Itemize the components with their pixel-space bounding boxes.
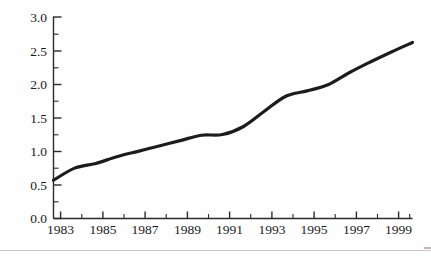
y-tick-label: 1.5 (30, 111, 47, 126)
x-tick-label: 1983 (47, 222, 74, 237)
x-tick-label: 1987 (132, 222, 159, 237)
chart-plot-area: 0.0 0.5 1.0 1.5 2.0 2.5 3.0 1983 1985 19… (0, 0, 431, 261)
line-chart-figure: 0.0 0.5 1.0 1.5 2.0 2.5 3.0 1983 1985 19… (0, 0, 431, 261)
x-axis-major-ticks (61, 212, 399, 219)
y-tick-label: 0.5 (30, 178, 47, 193)
y-tick-label: 3.0 (30, 10, 47, 25)
y-axis-tick-labels: 0.0 0.5 1.0 1.5 2.0 2.5 3.0 (30, 10, 47, 226)
x-tick-label: 1997 (343, 222, 370, 237)
x-axis-tick-labels: 1983 1985 1987 1989 1991 1993 1995 1997 … (47, 222, 412, 237)
data-series-line (54, 43, 413, 181)
y-tick-label: 2.5 (30, 44, 47, 59)
screenshot-root: 0.0 0.5 1.0 1.5 2.0 2.5 3.0 1983 1985 19… (0, 0, 431, 261)
y-axis-major-ticks (54, 17, 62, 219)
chart-axes (54, 17, 413, 219)
y-tick-label: 0.0 (30, 211, 47, 226)
page-edge-mark (424, 247, 431, 249)
x-tick-label: 1993 (258, 222, 285, 237)
y-tick-label: 1.0 (30, 144, 47, 159)
page-bottom-rule (0, 250, 431, 251)
x-tick-label: 1995 (301, 222, 328, 237)
y-tick-label: 2.0 (30, 77, 47, 92)
x-tick-label: 1985 (89, 222, 116, 237)
x-tick-label: 1999 (385, 222, 412, 237)
x-tick-label: 1991 (216, 222, 243, 237)
x-tick-label: 1989 (174, 222, 201, 237)
